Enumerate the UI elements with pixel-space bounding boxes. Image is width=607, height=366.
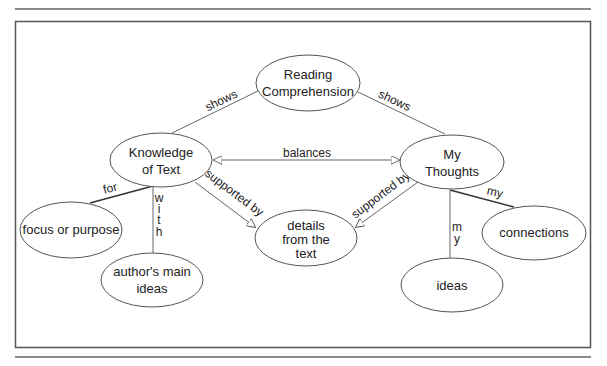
node-label: text: [296, 246, 317, 261]
label-my-connections: my: [486, 183, 505, 200]
node-label: from the: [282, 232, 330, 247]
label-my-ideas-y: y: [454, 232, 460, 246]
label-for: for: [102, 180, 119, 197]
node-label: ideas: [436, 278, 468, 293]
node-ideas[interactable]: ideas: [401, 258, 503, 312]
node-label: details: [287, 218, 325, 233]
concept-map: shows shows balances supported by suppor…: [0, 0, 607, 366]
node-label: My: [443, 147, 461, 162]
node-my-thoughts[interactable]: My Thoughts: [400, 135, 504, 189]
node-label: connections: [499, 225, 569, 240]
label-with-h: h: [156, 225, 163, 239]
node-label: Thoughts: [425, 164, 480, 179]
node-knowledge-of-text[interactable]: Knowledge of Text: [110, 133, 212, 187]
node-label: Knowledge: [129, 145, 193, 160]
label-supported-by-right: supported by: [349, 168, 413, 221]
node-label: author's main: [113, 264, 191, 279]
node-label: Comprehension: [262, 84, 354, 99]
label-balances: balances: [283, 146, 331, 160]
node-details-from-the-text[interactable]: details from the text: [255, 210, 357, 266]
node-connections[interactable]: connections: [482, 206, 586, 260]
edge-thoughts-connections: [450, 190, 514, 207]
node-label: ideas: [136, 281, 168, 296]
edge-knowledge-focus: [90, 186, 153, 203]
node-reading-comprehension[interactable]: Reading Comprehension: [256, 55, 360, 111]
node-focus-or-purpose[interactable]: focus or purpose: [20, 202, 122, 258]
label-shows-left: shows: [203, 87, 240, 114]
node-label: of Text: [142, 162, 180, 177]
node-label: Reading: [284, 67, 332, 82]
node-label: focus or purpose: [23, 222, 120, 237]
node-authors-main-ideas[interactable]: author's main ideas: [101, 253, 203, 307]
